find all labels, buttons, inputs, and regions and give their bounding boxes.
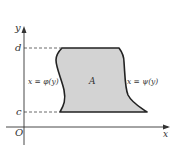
origin-label: O (15, 127, 23, 138)
region-diagram: y d c O x A x = φ(y) x = ψ(y) (0, 0, 176, 160)
left-curve-label: x = φ(y) (28, 77, 59, 86)
d-label: d (15, 42, 21, 53)
region-label: A (88, 76, 96, 86)
y-axis-label: y (14, 22, 21, 33)
c-label: c (16, 106, 22, 117)
diagram-canvas: y d c O x A x = φ(y) x = ψ(y) (0, 0, 176, 160)
right-curve-label: x = ψ(y) (127, 77, 158, 86)
x-axis-label: x (163, 129, 168, 139)
y-axis-arrow-icon (22, 26, 27, 33)
